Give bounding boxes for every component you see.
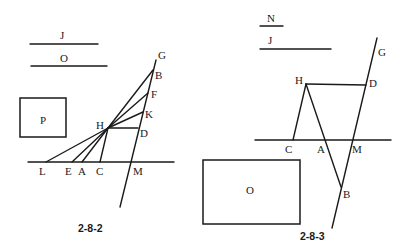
- geometry-diagrams: J O P G B F K H D L E A C M 2-8-2 N J: [0, 0, 409, 250]
- line-h-d: [306, 84, 366, 85]
- segment-o-label: O: [60, 52, 68, 64]
- line-g-b: [332, 38, 377, 228]
- point-h-label: H: [295, 74, 303, 86]
- point-c-label: C: [285, 143, 292, 155]
- line-h-b: [306, 84, 341, 187]
- point-g-label: G: [378, 46, 386, 58]
- point-d-label: D: [140, 127, 148, 139]
- figure-2-8-3: N J G H D C A M B O 2-8-3: [203, 12, 391, 242]
- point-k-label: K: [145, 108, 153, 120]
- rectangle-o-label: O: [246, 184, 254, 196]
- figure-2-8-2: J O P G B F K H D L E A C M 2-8-2: [20, 29, 174, 234]
- point-h-label: H: [96, 119, 104, 131]
- point-b-label: B: [343, 188, 350, 200]
- square-p-label: P: [40, 114, 46, 126]
- segment-j-label: J: [268, 34, 273, 46]
- point-f-label: F: [151, 88, 157, 100]
- point-m-label: M: [352, 143, 362, 155]
- point-l-label: L: [39, 165, 46, 177]
- point-g-label: G: [158, 49, 166, 61]
- point-a-label: A: [317, 143, 325, 155]
- point-m-label: M: [133, 165, 143, 177]
- figure-caption: 2-8-2: [78, 222, 103, 234]
- line-h-k: [108, 112, 143, 128]
- segment-j-label: J: [60, 29, 65, 41]
- point-d-label: D: [369, 77, 377, 89]
- point-c-label: C: [96, 165, 103, 177]
- point-e-label: E: [65, 165, 72, 177]
- line-h-c: [293, 84, 306, 140]
- segment-n-label: N: [267, 12, 275, 24]
- figure-caption: 2-8-3: [300, 230, 325, 242]
- point-a-label: A: [78, 165, 86, 177]
- line-h-f: [108, 93, 148, 128]
- line-g-m: [120, 60, 156, 207]
- point-b-label: B: [155, 69, 162, 81]
